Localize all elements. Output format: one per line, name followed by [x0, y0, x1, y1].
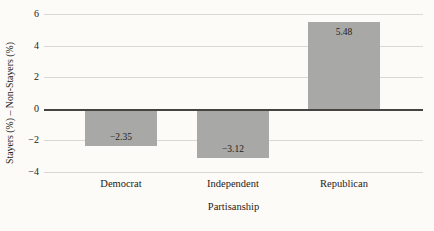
- bar-value-label-independent: −3.12: [203, 144, 263, 155]
- bar-value-label-democrat: −2.35: [91, 132, 151, 143]
- x-axis-title: Partisanship: [173, 200, 294, 213]
- y-tick-label: 0: [10, 103, 39, 115]
- y-tick-label: −2: [10, 134, 39, 146]
- zero-axis-line: [44, 109, 423, 111]
- bar-value-label-republican: 5.48: [314, 27, 374, 38]
- gridline-y-4: [44, 172, 423, 173]
- x-tick-democrat: Democrat: [66, 177, 176, 190]
- y-tick-label: 4: [10, 40, 39, 52]
- page: { "chart_data": { "type": "bar", "title"…: [0, 0, 434, 231]
- x-tick-independent: Independent: [178, 177, 288, 190]
- gridline-y6: [44, 14, 423, 15]
- bar-chart-figure: Stayers (%) – Non-Stayers (%) Partisansh…: [0, 0, 434, 231]
- y-tick-label: 6: [10, 8, 39, 20]
- y-tick-label: −4: [10, 166, 39, 178]
- y-tick-label: 2: [10, 71, 39, 83]
- x-tick-republican: Republican: [289, 177, 399, 190]
